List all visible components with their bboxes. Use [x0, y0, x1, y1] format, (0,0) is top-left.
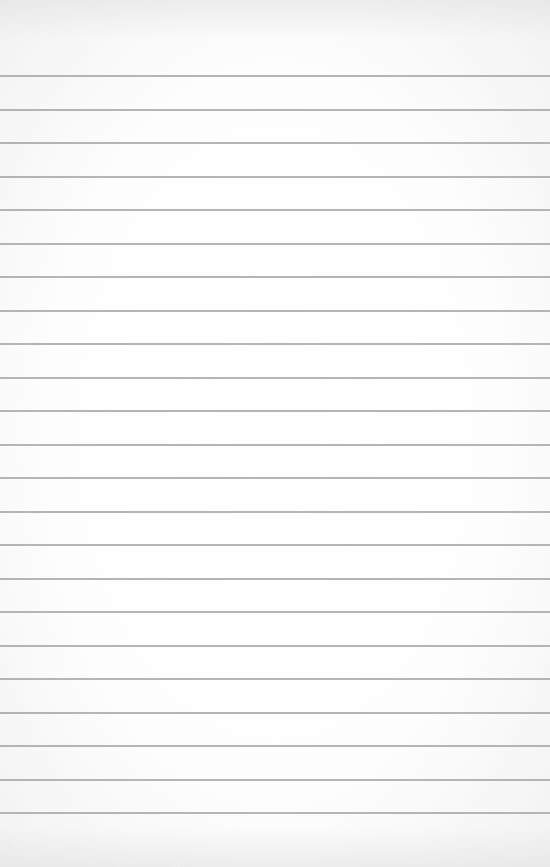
ruled-line	[0, 678, 550, 680]
ruled-line	[0, 75, 550, 77]
lined-paper-sheet	[0, 0, 550, 867]
ruled-line	[0, 779, 550, 781]
ruled-line	[0, 142, 550, 144]
ruled-line	[0, 176, 550, 178]
ruled-line	[0, 410, 550, 412]
ruled-line	[0, 276, 550, 278]
ruled-line	[0, 611, 550, 613]
ruled-line	[0, 544, 550, 546]
ruled-line	[0, 109, 550, 111]
ruled-line	[0, 243, 550, 245]
ruled-line	[0, 712, 550, 714]
ruled-line	[0, 511, 550, 513]
ruled-line	[0, 578, 550, 580]
ruled-line	[0, 745, 550, 747]
ruled-line	[0, 310, 550, 312]
ruled-line	[0, 444, 550, 446]
ruled-line	[0, 645, 550, 647]
ruled-line	[0, 812, 550, 814]
ruled-line	[0, 477, 550, 479]
ruled-line	[0, 343, 550, 345]
ruled-line	[0, 209, 550, 211]
ruled-line	[0, 377, 550, 379]
